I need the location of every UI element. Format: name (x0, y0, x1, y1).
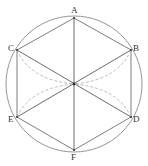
edge-FE (17, 117, 74, 150)
center-dot (73, 83, 76, 86)
label-D: D (133, 114, 140, 124)
vertex-dot-F (73, 149, 75, 151)
vertex-dot-A (73, 17, 75, 19)
label-E: E (8, 114, 14, 124)
vertex-dot-D (130, 116, 132, 118)
label-A: A (71, 5, 78, 15)
vertex-dot-E (16, 116, 18, 118)
edge-DF (74, 117, 131, 150)
label-F: F (71, 152, 76, 162)
edge-CA (17, 18, 74, 50)
vertex-dot-B (130, 49, 132, 51)
edge-AB (74, 18, 131, 50)
hexagon-diagram: A B C D E F (0, 0, 148, 166)
label-B: B (133, 43, 139, 53)
vertex-dot-C (16, 49, 18, 51)
label-C: C (8, 43, 14, 53)
